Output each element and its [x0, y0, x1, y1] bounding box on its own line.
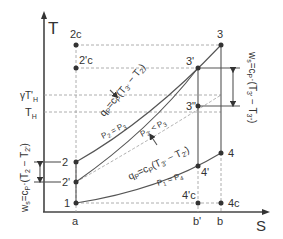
label-3: 3: [217, 28, 223, 40]
point-labels: 1 2 2' 2c 2'c 3 3' 3" 4 4' 4'c 4c: [62, 28, 240, 209]
ytick-gamma-th: γT'H: [20, 90, 38, 103]
y-tick-labels: γT'H TH: [20, 90, 38, 120]
point-2p: [74, 180, 79, 185]
point-2: [74, 160, 79, 165]
ts-diagram: T S: [0, 0, 283, 239]
point-2pc: [74, 66, 79, 71]
isobar-high: [76, 45, 221, 162]
label-2pc: 2'c: [79, 54, 93, 66]
point-3p: [196, 66, 201, 71]
xtick-b: b: [217, 215, 223, 227]
x-axis-arrow-icon: [262, 209, 270, 215]
label-4pc: 4'c: [182, 189, 196, 201]
y-axis-arrow-icon: [41, 11, 47, 19]
heat-in-label: qP=cP(T3' − T2): [97, 61, 148, 119]
work-turbine-label: ws=cP·(T3' − T3"): [246, 51, 258, 123]
label-3pp: 3": [186, 100, 196, 112]
label-1: 1: [64, 197, 70, 209]
point-3: [219, 43, 224, 48]
points: [74, 43, 224, 206]
isobar-mid-label: P2' < P3: [139, 118, 169, 140]
xtick-a: a: [72, 215, 79, 227]
point-2c: [74, 43, 79, 48]
point-4c: [219, 201, 224, 206]
work-compressor-label: ws=cP·(T2 − T2'): [19, 143, 31, 213]
label-3p: 3': [186, 55, 194, 67]
point-4p: [196, 164, 201, 169]
xtick-bp: b': [193, 215, 201, 227]
label-4: 4: [228, 147, 234, 159]
point-4pc: [196, 201, 201, 206]
ytick-th: TH: [25, 106, 37, 120]
label-2c: 2c: [70, 28, 82, 40]
point-3pp: [196, 104, 201, 109]
label-4p: 4': [201, 166, 209, 178]
x-axis-label: S: [256, 217, 266, 234]
x-tick-labels: a b' b: [72, 215, 223, 227]
label-2: 2: [62, 156, 68, 168]
label-4c: 4c: [228, 197, 240, 209]
label-2p: 2': [62, 176, 70, 188]
point-1: [74, 201, 79, 206]
point-4: [219, 151, 224, 156]
y-axis-label: T: [48, 19, 58, 38]
